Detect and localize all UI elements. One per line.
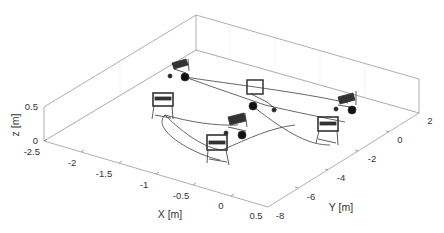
y-axis-label: Y [m] [329,201,353,213]
svg-text:-8: -8 [276,210,284,221]
svg-text:-2.5: -2.5 [24,146,40,157]
z-tick: 0.5 [25,101,38,112]
figure: 0.5 0 z [m] -2.5 -2 -1.5 -1 -0.5 0 0.5 X… [0,0,444,233]
wheelchair-icon [152,93,173,119]
svg-text:-2: -2 [368,153,376,164]
wheelchair-icon [168,59,189,81]
svg-text:-6: -6 [307,191,315,202]
wheelchair-icon [247,80,277,112]
x-axis-label: X [m] [158,208,183,220]
wheelchair-icon [316,117,338,145]
z-axis-label: z [m] [9,114,21,137]
svg-text:-1.5: -1.5 [96,168,112,179]
svg-text:0: 0 [397,134,402,145]
svg-text:-2: -2 [68,157,76,168]
svg-text:-1: -1 [140,179,148,190]
wheelchairs [152,59,356,165]
plot-3d: 0.5 0 z [m] -2.5 -2 -1.5 -1 -0.5 0 0.5 X… [0,0,444,233]
svg-text:0.5: 0.5 [249,210,262,221]
svg-text:-0.5: -0.5 [173,190,189,201]
x-tick-labels: -2.5 -2 -1.5 -1 -0.5 0 0.5 [24,146,263,221]
trajectories [162,77,348,160]
svg-text:-4: -4 [337,172,345,183]
z-tick-labels: 0.5 0 [25,101,38,146]
z-tick: 0 [33,135,38,146]
wheelchair-icon [207,135,229,165]
svg-text:0: 0 [218,200,223,211]
wheelchair-icon [334,91,356,114]
svg-text:2: 2 [427,115,432,126]
y-tick-labels: -8 -6 -4 -2 0 2 [276,115,433,221]
